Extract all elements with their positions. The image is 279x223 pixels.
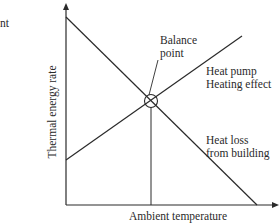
diagram-canvas [0,0,279,223]
heat-loss-label-line1: Heat loss [206,134,270,147]
heat-loss-label-line2: from building [206,147,270,160]
balance-point-label-line1: Balance [160,34,197,47]
balance-point-label: Balance point [160,34,197,60]
x-axis-arrow-icon [272,202,279,208]
cropped-text-fragment: nt [0,17,9,30]
heat-loss-label: Heat loss from building [206,134,270,160]
y-axis-arrow-icon [63,3,69,10]
heat-pump-label-line2: Heating effect [206,78,271,91]
y-axis-label: Thermal energy rate [46,65,58,158]
heat-pump-label: Heat pump Heating effect [206,65,271,91]
balance-point-label-line2: point [160,47,197,60]
balance-point-leader [149,60,158,95]
x-axis-label: Ambient temperature [129,210,227,223]
heat-pump-label-line1: Heat pump [206,65,271,78]
